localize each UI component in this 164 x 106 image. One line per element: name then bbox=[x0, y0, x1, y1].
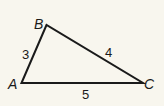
side-label-ab: 3 bbox=[22, 47, 29, 62]
side-label-bc: 4 bbox=[105, 45, 112, 60]
vertex-label-b: B bbox=[34, 16, 43, 32]
triangle-figure: A B C 3 4 5 bbox=[0, 0, 164, 106]
vertex-label-c: C bbox=[144, 76, 155, 92]
side-label-ac: 5 bbox=[82, 87, 89, 102]
triangle-abc bbox=[22, 25, 144, 83]
vertex-label-a: A bbox=[7, 76, 17, 92]
triangle-diagram: A B C 3 4 5 bbox=[0, 0, 164, 106]
